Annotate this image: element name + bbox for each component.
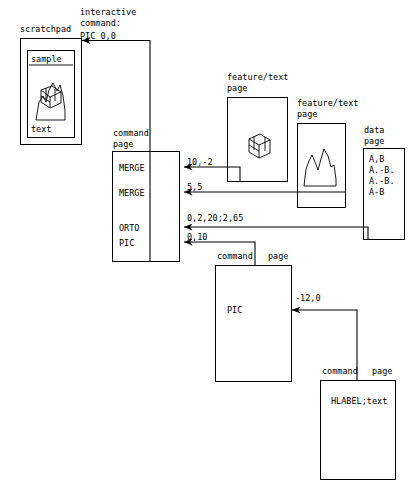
data-page-row-0: A,B bbox=[369, 154, 384, 165]
pic-command-page-body: PIC bbox=[227, 305, 242, 316]
arrow-orto bbox=[184, 227, 368, 240]
main-command-page-label-line2: page bbox=[113, 139, 133, 150]
hlabel-command-page-label-line1: command bbox=[322, 366, 358, 377]
feature-page-2-label-line2: page bbox=[297, 109, 317, 120]
hlabel-command-page-body: HLABEL;text bbox=[331, 396, 387, 407]
command-row-arg-3: 0,10 bbox=[187, 232, 207, 243]
feature-page-1-label-line2: page bbox=[227, 83, 247, 94]
feature-page-2-label-line1: feature/text bbox=[297, 98, 358, 109]
diagram-canvas: scratchpad sample text interactive comma… bbox=[0, 0, 415, 488]
data-page-label-line1: data bbox=[364, 125, 384, 136]
command-row-arg-1: 5,5 bbox=[187, 182, 202, 193]
scratchpad-text-label: text bbox=[31, 124, 51, 135]
feature-page-1-label-line1: feature/text bbox=[227, 72, 288, 83]
hlabel-command-page-box bbox=[320, 380, 396, 480]
interactive-command-line1: interactive bbox=[80, 7, 136, 18]
command-row-name-2: ORTO bbox=[119, 223, 139, 234]
scratchpad-label: scratchpad bbox=[20, 24, 71, 35]
interactive-command-value: PIC 0,0 bbox=[80, 31, 116, 42]
data-page-label-line2: page bbox=[364, 136, 384, 147]
main-command-page-label-line1: command bbox=[113, 128, 149, 139]
pic-command-page-arg: -12,0 bbox=[295, 293, 321, 304]
feature-page-1-cube-icon bbox=[227, 97, 288, 182]
pic-command-page-box bbox=[215, 265, 292, 382]
command-row-name-3: PIC bbox=[119, 238, 134, 249]
command-row-arg-2: 0,2,20;2,65 bbox=[187, 213, 243, 224]
feature-page-2-mountain-icon bbox=[297, 123, 346, 208]
command-row-name-1: MERGE bbox=[119, 188, 145, 199]
command-row-arg-0: 10,-2 bbox=[187, 157, 213, 168]
hlabel-command-page-label-line2: page bbox=[372, 366, 392, 377]
pic-command-page-label-line2: page bbox=[268, 251, 288, 262]
data-page-row-1: A.-B. bbox=[369, 165, 395, 176]
data-page-row-2: A.-B. bbox=[369, 176, 395, 187]
data-page-row-3: A-B bbox=[369, 187, 384, 198]
interactive-command-line2: command: bbox=[80, 18, 121, 29]
pic-command-page-label-line1: command bbox=[217, 251, 253, 262]
command-row-name-0: MERGE bbox=[119, 163, 145, 174]
